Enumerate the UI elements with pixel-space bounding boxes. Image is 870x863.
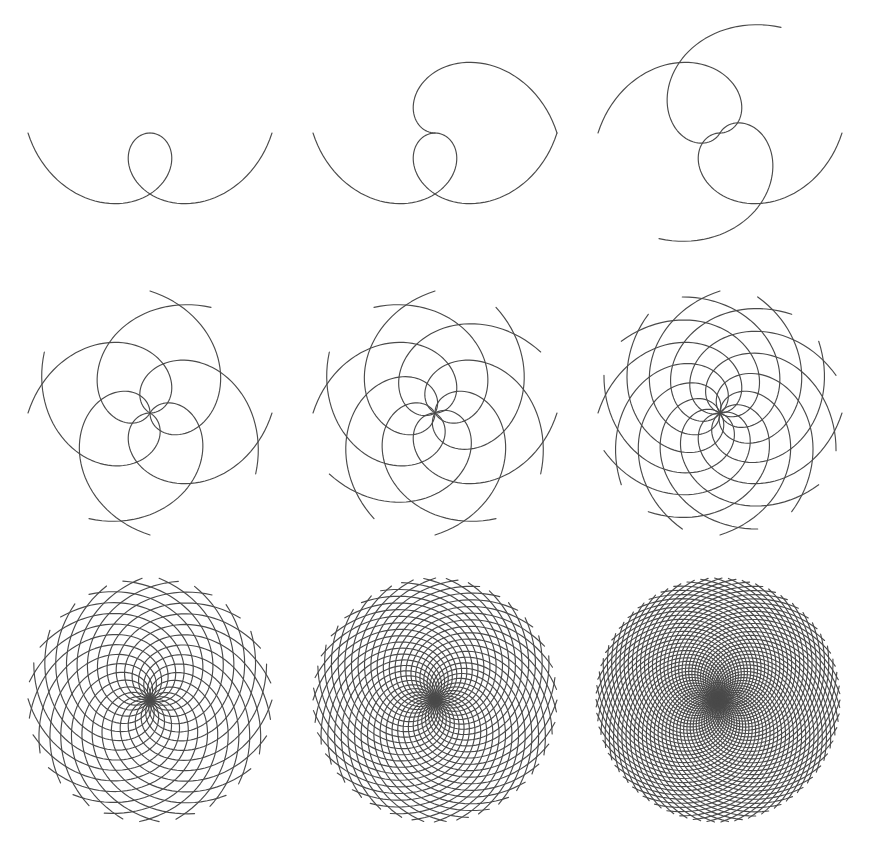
spiral-figure [0,0,870,863]
figure-background [0,0,870,863]
